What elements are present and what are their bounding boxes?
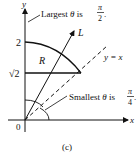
largest-frac-num: π <box>98 3 103 12</box>
polar-region-diagram: y x 0 2 √2 R L y = x Largest θ is π 2 . … <box>0 0 139 156</box>
smallest-frac-num: π <box>128 87 133 96</box>
figure-caption: (c) <box>62 142 72 152</box>
leader-largest <box>28 15 40 22</box>
largest-annotation: Largest θ is <box>41 9 83 19</box>
ray-label: L <box>77 27 84 38</box>
tick-2: 2 <box>16 37 21 48</box>
leader-smallest <box>45 96 67 110</box>
ray-L <box>25 31 74 120</box>
largest-period: . <box>104 9 106 19</box>
largest-frac-den: 2 <box>98 14 102 23</box>
x-axis-label: x <box>129 115 134 125</box>
y-axis-label: y <box>21 0 26 9</box>
smallest-frac-den: 4 <box>128 98 132 107</box>
origin-label: 0 <box>16 122 21 132</box>
tick-sqrt2: √2 <box>9 68 20 79</box>
smallest-period: . <box>134 92 136 102</box>
smallest-annotation: Smallest θ is <box>69 92 115 102</box>
region-label: R <box>38 55 45 66</box>
angle-arc-small <box>40 108 49 120</box>
line-label: y = x <box>103 52 123 62</box>
